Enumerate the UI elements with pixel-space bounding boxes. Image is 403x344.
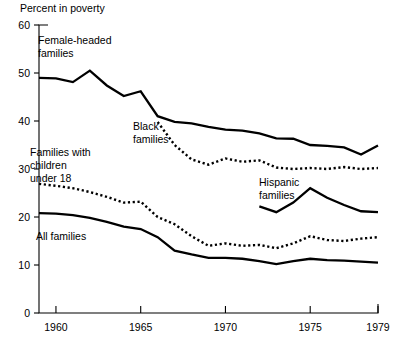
annotation-hispanic: Hispanicfamilies xyxy=(259,176,299,201)
y-tick-label: 20 xyxy=(18,211,30,223)
x-tick-label: 1965 xyxy=(129,321,153,333)
axis-lines xyxy=(39,25,378,313)
annotation-line: under 18 xyxy=(30,172,72,184)
annotation-line: All families xyxy=(36,230,86,242)
chart-svg: Percent in poverty 0102030405060 1960196… xyxy=(0,0,403,344)
series-line-female-headed-families xyxy=(39,71,378,155)
annotation-line: families xyxy=(259,189,295,201)
x-tick-label: 1970 xyxy=(214,321,238,333)
y-tick-label: 40 xyxy=(18,115,30,127)
annotation-line: Black xyxy=(133,120,159,132)
y-tick-label: 50 xyxy=(18,67,30,79)
annotation-line: Female-headed xyxy=(38,34,112,46)
annotation-line: families xyxy=(38,47,74,59)
series-lines xyxy=(39,71,378,264)
y-tick-label: 10 xyxy=(18,259,30,271)
x-tick-label: 1960 xyxy=(44,321,68,333)
y-tick-label: 0 xyxy=(24,307,30,319)
series-line-black-families xyxy=(158,122,378,169)
annotation-all-families: All families xyxy=(36,230,86,242)
series-annotations: Female-headedfamiliesBlackfamiliesFamili… xyxy=(30,34,299,242)
annotation-line: children xyxy=(30,159,67,171)
poverty-chart: Percent in poverty 0102030405060 1960196… xyxy=(0,0,403,344)
x-tick-label: 1975 xyxy=(299,321,323,333)
annotation-families-with: Families withchildrenunder 18 xyxy=(30,146,91,184)
annotation-line: Families with xyxy=(30,146,91,158)
x-axis-ticks: 19601965197019751979 xyxy=(44,306,390,333)
series-line-families-with-children-under-18 xyxy=(39,184,378,248)
annotation-line: Hispanic xyxy=(259,176,299,188)
series-line-all-families xyxy=(39,213,378,264)
y-tick-label: 30 xyxy=(18,163,30,175)
page-title: Percent in poverty xyxy=(20,2,105,14)
annotation-female-headed: Female-headedfamilies xyxy=(38,34,112,59)
annotation-line: families xyxy=(133,133,169,145)
y-tick-label: 60 xyxy=(18,19,30,31)
x-tick-label: 1979 xyxy=(366,321,390,333)
annotation-black: Blackfamilies xyxy=(133,120,169,145)
